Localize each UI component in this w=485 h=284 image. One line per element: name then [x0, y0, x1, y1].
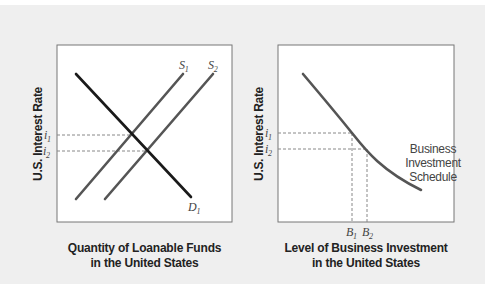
curve-label-line2: Investment: [398, 156, 468, 170]
s1-label: S1: [179, 58, 188, 77]
left-plot-area: [57, 45, 232, 222]
right-x-label-line2: in the United States: [278, 256, 454, 271]
left-x-axis-label: Quantity of Loanable Funds in the United…: [57, 241, 232, 271]
s2-label: S2: [208, 58, 217, 77]
business-investment-schedule-label: Business Investment Schedule: [398, 142, 468, 184]
left-y-axis-label: U.S. Interest Rate: [31, 87, 45, 181]
right-i2-label: i2: [265, 142, 272, 161]
left-i2-label: i2: [43, 144, 50, 163]
left-x-label-line1: Quantity of Loanable Funds: [57, 241, 232, 256]
curve-label-line3: Schedule: [398, 170, 468, 184]
right-x-label-line1: Level of Business Investment: [278, 241, 454, 256]
curve-label-line1: Business: [398, 142, 468, 156]
d1-label: D1: [188, 200, 200, 219]
right-y-axis-label: U.S. Interest Rate: [252, 87, 266, 181]
left-x-label-line2: in the United States: [57, 256, 232, 271]
right-x-axis-label: Level of Business Investment in the Unit…: [278, 241, 454, 271]
